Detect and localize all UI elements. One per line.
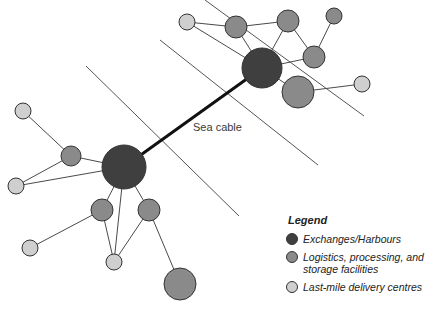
lastmile-node bbox=[8, 178, 24, 194]
legend-label: Last-mile delivery centres bbox=[303, 281, 422, 293]
legend-title: Legend bbox=[288, 214, 435, 226]
lastmile-node bbox=[106, 254, 122, 270]
lastmile-node bbox=[354, 76, 370, 92]
sea-cable-label: Sea cable bbox=[193, 121, 242, 133]
legend-item-exchanges: Exchanges/Harbours bbox=[286, 233, 435, 245]
network-diagram: Sea cable Legend Exchanges/Harbours Logi… bbox=[0, 0, 435, 313]
logistics-node bbox=[277, 10, 299, 32]
logistics-node bbox=[91, 199, 113, 221]
logistics-node bbox=[138, 199, 160, 221]
sea-cable bbox=[124, 68, 262, 167]
logistics-node bbox=[61, 146, 81, 166]
logistics-node bbox=[303, 46, 325, 68]
legend-item-logistics: Logistics, processing, and storage facil… bbox=[286, 251, 435, 275]
network-link bbox=[30, 210, 102, 248]
lastmile-swatch-icon bbox=[286, 281, 298, 293]
exchange-node bbox=[242, 48, 282, 88]
legend-item-lastmile: Last-mile delivery centres bbox=[286, 281, 435, 293]
lastmile-node bbox=[15, 103, 31, 119]
exchange-node bbox=[102, 145, 146, 189]
lastmile-node bbox=[179, 14, 195, 30]
logistics-swatch-icon bbox=[286, 251, 298, 263]
legend: Legend Exchanges/Harbours Logistics, pro… bbox=[286, 214, 435, 299]
logistics-node bbox=[164, 268, 196, 300]
logistics-node bbox=[326, 8, 342, 24]
exchange-swatch-icon bbox=[286, 233, 298, 245]
logistics-node bbox=[282, 76, 314, 108]
lastmile-node bbox=[22, 240, 38, 256]
logistics-node bbox=[225, 16, 247, 38]
legend-label: Exchanges/Harbours bbox=[303, 233, 401, 245]
legend-label: Logistics, processing, and storage facil… bbox=[303, 251, 435, 275]
